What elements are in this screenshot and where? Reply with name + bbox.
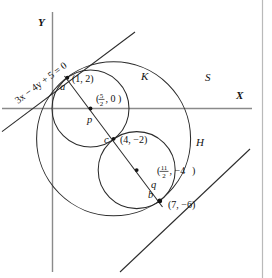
circle-s-label: S bbox=[205, 71, 211, 83]
point-q-coord: ( 11 2 , −4 ) bbox=[157, 164, 195, 180]
point-q-marker bbox=[135, 168, 139, 172]
point-p-label: p bbox=[86, 114, 92, 125]
svg-text:): ) bbox=[192, 165, 195, 177]
point-p-marker bbox=[89, 107, 93, 111]
point-b-marker bbox=[157, 199, 162, 204]
point-b-label: b bbox=[148, 189, 153, 200]
svg-text:): ) bbox=[118, 93, 121, 105]
point-c-marker bbox=[112, 137, 116, 141]
point-q-coord-denominator: 2 bbox=[162, 172, 166, 180]
point-c-coord: (4, −2) bbox=[120, 134, 147, 146]
point-p-coord-rest: , 0 bbox=[106, 93, 116, 104]
y-axis-label: Y bbox=[38, 16, 46, 28]
point-a-marker bbox=[66, 76, 70, 80]
x-axis-label: X bbox=[235, 89, 244, 101]
geometry-figure: Y X 3x − 4y + 5 = 0 K S H a (1, 2) p ( 5… bbox=[0, 0, 272, 278]
point-q-coord-rest: , −4 bbox=[170, 165, 186, 176]
point-p-coord-denominator: 2 bbox=[100, 100, 104, 108]
circle-h-label: H bbox=[195, 136, 205, 148]
point-b-coord: (7, −6) bbox=[168, 199, 195, 211]
point-p-coord: ( 5 2 , 0 ) bbox=[96, 92, 121, 108]
point-p-coord-numerator: 5 bbox=[100, 92, 104, 100]
figure-canvas: Y X 3x − 4y + 5 = 0 K S H a (1, 2) p ( 5… bbox=[0, 0, 272, 278]
point-q-coord-numerator: 11 bbox=[161, 164, 168, 172]
circle-k-label: K bbox=[140, 70, 149, 82]
point-a-label: a bbox=[60, 81, 65, 92]
point-c-label: c bbox=[104, 134, 109, 145]
point-a-coord: (1, 2) bbox=[72, 73, 94, 85]
